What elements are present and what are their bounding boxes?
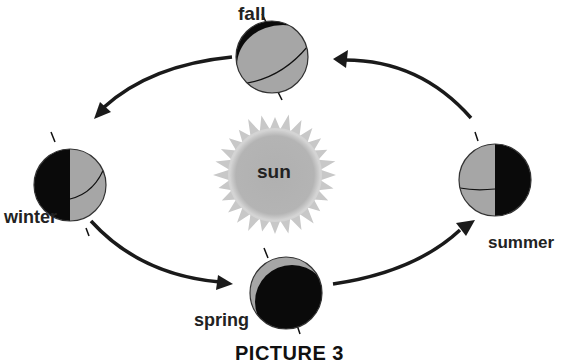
label-fall: fall <box>238 3 265 25</box>
label-summer: summer <box>488 233 554 253</box>
earth-summer <box>455 132 535 220</box>
orbit-arrow-spring-to-summer <box>333 220 475 284</box>
label-spring: spring <box>194 310 249 331</box>
earth-fall <box>230 14 329 105</box>
earth-spring <box>245 248 330 339</box>
label-winter: winter <box>4 207 57 228</box>
orbit-arrow-winter-to-spring <box>91 221 233 290</box>
label-sun: sun <box>257 161 291 183</box>
figure-caption: PICTURE 3 <box>235 342 344 361</box>
orbit-arrow-fall-to-winter <box>94 57 232 119</box>
orbit-arrow-summer-to-fall <box>333 50 471 118</box>
